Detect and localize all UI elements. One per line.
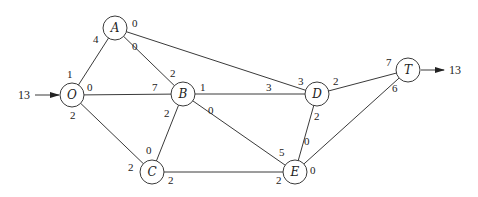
node-A: A — [103, 16, 127, 40]
edge-label: 4 — [93, 33, 99, 45]
node-O: O — [60, 83, 84, 107]
edge-label: 0 — [208, 104, 214, 116]
node-label: E — [290, 165, 300, 179]
node-label: O — [67, 88, 77, 102]
node-label: D — [311, 87, 322, 101]
edge-label: 7 — [152, 81, 158, 93]
edge-label: 0 — [146, 144, 152, 156]
node-label: C — [147, 165, 156, 179]
edge-B-C — [152, 94, 183, 172]
edge-label: 0 — [310, 164, 316, 176]
node-label: A — [110, 21, 120, 35]
edge-label: 0 — [132, 17, 138, 29]
edge-label: 0 — [304, 135, 310, 147]
edge-label: 1 — [200, 81, 206, 93]
edge-label: 2 — [314, 110, 320, 122]
node-label: B — [178, 87, 188, 101]
edge-label: 3 — [266, 81, 272, 93]
nodes: O A B C D E T — [60, 16, 420, 184]
edge-label: 2 — [164, 107, 170, 119]
edge-label: 7 — [386, 56, 392, 68]
edge-A-B — [115, 28, 183, 94]
demand-arrow: 13 — [421, 63, 461, 77]
edge-label: 0 — [87, 81, 93, 93]
network-diagram: 13 13 O A B C D E — [0, 0, 478, 197]
edge-O-B — [72, 94, 183, 95]
edge-label: 5 — [279, 146, 285, 158]
edge-O-C — [72, 95, 152, 172]
edge-labels: 1 4 0 7 2 2 0 2 0 3 2 0 1 3 0 5 2 2 2 0 … — [67, 17, 398, 186]
edge-A-D — [115, 28, 317, 94]
edge-label: 2 — [168, 174, 174, 186]
edges — [72, 28, 408, 172]
edge-label: 2 — [333, 75, 339, 87]
edge-label: 3 — [298, 75, 304, 87]
edge-label: 1 — [67, 68, 73, 80]
edge-label: 2 — [70, 109, 76, 121]
edge-label: 2 — [128, 161, 134, 173]
node-C: C — [140, 160, 164, 184]
supply-value: 13 — [18, 88, 30, 102]
edge-label: 2 — [170, 67, 176, 79]
edge-label: 6 — [392, 82, 398, 94]
node-T: T — [396, 58, 420, 82]
supply-arrow: 13 — [18, 88, 59, 102]
node-E: E — [283, 160, 307, 184]
node-D: D — [305, 82, 329, 106]
edge-B-E — [183, 94, 295, 172]
node-label: T — [404, 63, 413, 77]
node-B: B — [171, 82, 195, 106]
edge-label: 0 — [132, 40, 138, 52]
edge-label: 2 — [276, 174, 282, 186]
demand-value: 13 — [449, 63, 461, 77]
